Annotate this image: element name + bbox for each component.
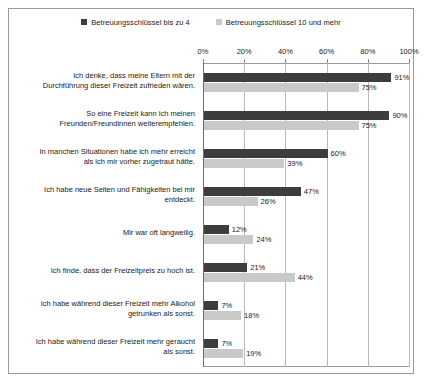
x-tick-label-100%: 100% [399, 47, 418, 56]
x-tick-label-0%: 0% [198, 47, 209, 56]
bar-dark [204, 187, 301, 196]
bar-value-label: 19% [246, 349, 261, 358]
bar-value-label: 44% [298, 273, 313, 282]
category-row: Ich denke, dass meine Eltern mit derDurc… [203, 63, 409, 101]
legend-label-0: Betreuungsschlüssel bis zu 4 [91, 18, 190, 27]
bar-dark [204, 73, 391, 82]
bar-light [204, 349, 243, 358]
category-row: In manchen Situationen habe ich mehr err… [203, 139, 409, 177]
category-label-line: Ich habe neue Seiten und Fähigkeiten bei… [17, 185, 195, 196]
category-label-line: Ich denke, dass meine Eltern mit der [17, 71, 195, 82]
x-tick-label-20%: 20% [237, 47, 252, 56]
category-label: In manchen Situationen habe ich mehr err… [17, 147, 195, 168]
category-row: Ich finde, dass der Freizeitpreis zu hoc… [203, 253, 409, 291]
bar-value-label: 26% [261, 197, 276, 206]
bar-value-label: 12% [232, 225, 247, 234]
category-label-line: getrunken als sonst. [17, 309, 195, 320]
category-row: Mir war oft langweilig.12%24% [203, 215, 409, 253]
category-label: Mir war oft langweilig. [17, 228, 195, 239]
bar-value-label: 47% [304, 187, 319, 196]
bar-value-label: 91% [394, 73, 409, 82]
category-label-line: In manchen Situationen habe ich mehr err… [17, 147, 195, 158]
bar-dark [204, 149, 328, 158]
category-row: Ich habe neue Seiten und Fähigkeiten bei… [203, 177, 409, 215]
category-label-line: So eine Freizeit kann ich meinen [17, 109, 195, 120]
category-label: Ich denke, dass meine Eltern mit derDurc… [17, 71, 195, 92]
category-label-line: Ich habe während dieser Freizeit mehr ge… [17, 337, 195, 348]
category-label: Ich habe während dieser Freizeit mehr Al… [17, 299, 195, 320]
category-label-line: Ich finde, dass der Freizeitpreis zu hoc… [17, 266, 195, 277]
chart-frame: Betreuungsschlüssel bis zu 4 Betreuungss… [8, 8, 414, 374]
bar-dark [204, 339, 218, 348]
bar-light [204, 235, 253, 244]
plot-area: Ich denke, dass meine Eltern mit derDurc… [203, 63, 409, 367]
bar-value-label: 75% [362, 121, 377, 130]
category-label-line: entdeckt. [17, 195, 195, 206]
category-label-line: Mir war oft langweilig. [17, 228, 195, 239]
category-row: So eine Freizeit kann ich meinenFreunden… [203, 101, 409, 139]
category-label-line: Durchführung dieser Freizeit zufrieden w… [17, 81, 195, 92]
bar-light [204, 159, 284, 168]
category-label-line: als sonst. [17, 347, 195, 358]
bar-dark [204, 111, 389, 120]
bar-value-label: 7% [221, 339, 232, 348]
category-label: Ich habe neue Seiten und Fähigkeiten bei… [17, 185, 195, 206]
legend-label-1: Betreuungsschlüssel 10 und mehr [226, 18, 341, 27]
bar-value-label: 24% [256, 235, 271, 244]
category-label-line: Freunden/Freundinnen weiterempfehlen. [17, 119, 195, 130]
category-label: So eine Freizeit kann ich meinenFreunden… [17, 109, 195, 130]
bar-dark [204, 263, 247, 272]
legend-item-1: Betreuungsschlüssel 10 und mehr [216, 18, 341, 27]
bar-value-label: 18% [244, 311, 259, 320]
legend-swatch-icon-dark [81, 19, 87, 25]
gridline-100% [409, 63, 410, 367]
category-row: Ich habe während dieser Freizeit mehr Al… [203, 291, 409, 329]
category-row: Ich habe während dieser Freizeit mehr ge… [203, 329, 409, 367]
bar-value-label: 39% [287, 159, 302, 168]
bar-value-label: 90% [392, 111, 407, 120]
bar-value-label: 60% [331, 149, 346, 158]
bar-light [204, 121, 359, 130]
legend-swatch-icon-light [216, 19, 222, 25]
bar-value-label: 7% [221, 301, 232, 310]
bar-light [204, 83, 359, 92]
bar-dark [204, 301, 218, 310]
bar-dark [204, 225, 229, 234]
bar-value-label: 75% [362, 83, 377, 92]
bar-value-label: 21% [250, 263, 265, 272]
x-tick-label-80%: 80% [360, 47, 375, 56]
x-tick-label-60%: 60% [319, 47, 334, 56]
category-label: Ich finde, dass der Freizeitpreis zu hoc… [17, 266, 195, 277]
bar-light [204, 197, 258, 206]
category-label-line: Ich habe während dieser Freizeit mehr Al… [17, 299, 195, 310]
bar-light [204, 311, 241, 320]
category-label: Ich habe während dieser Freizeit mehr ge… [17, 337, 195, 358]
category-label-line: als ich mir vorher zugetraut hätte. [17, 157, 195, 168]
chart-legend: Betreuungsschlüssel bis zu 4 Betreuungss… [9, 13, 413, 31]
x-tick-label-40%: 40% [278, 47, 293, 56]
legend-item-0: Betreuungsschlüssel bis zu 4 [81, 18, 190, 27]
bar-light [204, 273, 295, 282]
x-axis-tick-labels: 0%20%40%60%80%100% [203, 47, 409, 61]
